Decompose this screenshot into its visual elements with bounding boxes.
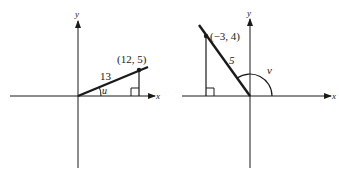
x-axis-label: x [155,91,160,101]
hypotenuse-label: 13 [100,70,112,82]
trig-diagrams: y x (12, 5) 13 u y x (−3, 4) 5 v [0,0,339,178]
right-diagram: y x (−3, 4) 5 v [182,8,336,168]
right-angle-marker [206,88,214,96]
right-angle-marker [131,88,139,96]
left-diagram: y x (12, 5) 13 u [10,9,160,168]
point-label: (12, 5) [117,53,147,66]
point-dot [137,68,141,72]
angle-u-arc [99,87,101,96]
y-axis-label: y [246,8,251,18]
hypotenuse-label: 5 [229,54,235,66]
angle-label: v [267,64,272,76]
angle-label: u [102,85,107,96]
point-label: (−3, 4) [210,30,240,43]
y-axis-label: y [74,9,79,19]
point-dot [204,34,208,38]
x-axis-label: x [331,91,336,101]
